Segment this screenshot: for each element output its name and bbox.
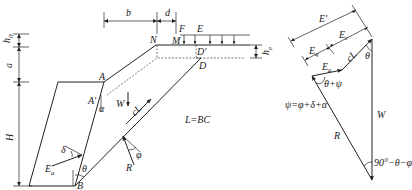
angle-theta-plus-psi: θ+ψ (324, 78, 343, 89)
psi-definition: ψ=φ+δ+α (285, 99, 328, 110)
point-A-prime: A' (87, 95, 97, 106)
svg-text:q: q (315, 50, 319, 58)
svg-text:a: a (328, 66, 332, 74)
surcharge-load (180, 35, 250, 44)
failure-plane (75, 58, 201, 186)
point-M: M (171, 35, 181, 46)
dim-label-b: b (126, 7, 131, 18)
point-N: N (149, 34, 158, 45)
label-E-prime: E' (318, 13, 328, 24)
label-Ea-right: E a (321, 61, 332, 74)
force-cL: cL (129, 102, 144, 117)
bottom-angle-arc (364, 162, 372, 166)
label-W-right: W (377, 109, 387, 120)
dim-label-H: H (4, 133, 15, 142)
delta-reference-line (65, 146, 82, 155)
svg-text:0: 0 (7, 34, 15, 38)
reaction-arrow (123, 136, 134, 165)
dimension-E-prime (288, 5, 372, 47)
label-cL-right: cL (344, 48, 359, 63)
retaining-wall-diagram: h 0 a H b d (0, 0, 412, 190)
equivalent-surface (107, 58, 245, 95)
angle-theta-right: θ (365, 50, 370, 61)
label-bottom-angle: 90°−θ−φ (374, 157, 412, 168)
dim-label-h0: h 0 (1, 34, 15, 43)
label-R-right: R (333, 130, 340, 141)
angle-alpha: α (99, 103, 105, 114)
left-figure: h 0 a H b d (1, 7, 274, 190)
delta-arc (71, 151, 72, 157)
dim-label-d: d (165, 7, 171, 18)
point-E: E (196, 23, 203, 34)
note-L-equals-BC: L=BC (184, 114, 210, 125)
point-D-prime: D' (196, 46, 207, 57)
force-W: W (116, 98, 126, 109)
svg-text:e: e (266, 47, 274, 50)
svg-text:c: c (345, 34, 349, 42)
point-B: B (77, 180, 83, 190)
vertical-dimension (13, 34, 32, 186)
force-R: R (125, 162, 132, 173)
point-D: D (198, 60, 207, 71)
label-Eq: E q (308, 45, 319, 58)
backfill-slope (104, 45, 250, 82)
point-F: F (178, 23, 186, 34)
dim-label-a: a (3, 63, 14, 68)
force-polygon-R (312, 76, 372, 180)
angle-delta: δ (61, 144, 66, 155)
angle-phi: φ (136, 149, 142, 160)
svg-text:a: a (51, 169, 55, 177)
dim-label-he: h e (260, 47, 274, 55)
earth-pressure-arrow (52, 155, 82, 166)
angle-theta: θ (82, 163, 87, 174)
right-figure: θ θ+ψ E' E q E c (285, 5, 412, 180)
point-A: A (98, 71, 106, 82)
theta-arc (75, 175, 84, 177)
